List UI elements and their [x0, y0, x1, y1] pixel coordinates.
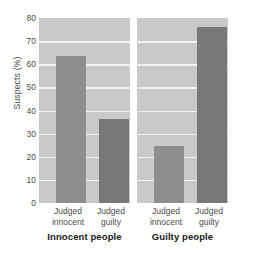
x-label-line2: guilty — [101, 217, 121, 227]
y-tick-60: 60 — [27, 59, 36, 69]
y-tick-50: 50 — [27, 82, 36, 92]
x-label-line1: Judged — [152, 206, 180, 216]
y-tick-70: 70 — [27, 36, 36, 46]
x-label-line2: guilty — [199, 217, 219, 227]
y-tick-40: 40 — [27, 106, 36, 116]
y-tick-0: 0 — [31, 198, 36, 208]
y-tick-80: 80 — [27, 13, 36, 23]
y-axis-tick-labels: 80 70 60 50 40 30 20 10 0 — [14, 18, 36, 203]
group-label-innocent-people: Innocent people — [39, 231, 130, 242]
plot-panel-guilty-people — [137, 18, 228, 203]
bar-innocent-judged-innocent — [56, 56, 86, 203]
y-tick-10: 10 — [27, 175, 36, 185]
plot-panel-innocent-people — [39, 18, 130, 203]
x-label-line1: Judged — [54, 206, 82, 216]
gridline-70 — [39, 41, 130, 43]
x-label-line2: innocent — [52, 217, 84, 227]
x-label-innocent-judged-guilty: Judged guilty — [83, 206, 139, 227]
y-tick-20: 20 — [27, 152, 36, 162]
x-label-line1: Judged — [195, 206, 223, 216]
bar-guilty-judged-guilty — [197, 27, 227, 203]
bar-guilty-judged-innocent — [154, 146, 184, 203]
group-label-guilty-people: Guilty people — [137, 231, 228, 242]
x-label-line2: innocent — [150, 217, 182, 227]
x-label-line1: Judged — [97, 206, 125, 216]
x-label-guilty-judged-guilty: Judged guilty — [181, 206, 237, 227]
y-tick-30: 30 — [27, 129, 36, 139]
bar-innocent-judged-guilty — [99, 119, 129, 203]
bar-chart-figure: Suspects (%) 80 70 60 50 40 30 20 10 0 J… — [0, 0, 266, 264]
